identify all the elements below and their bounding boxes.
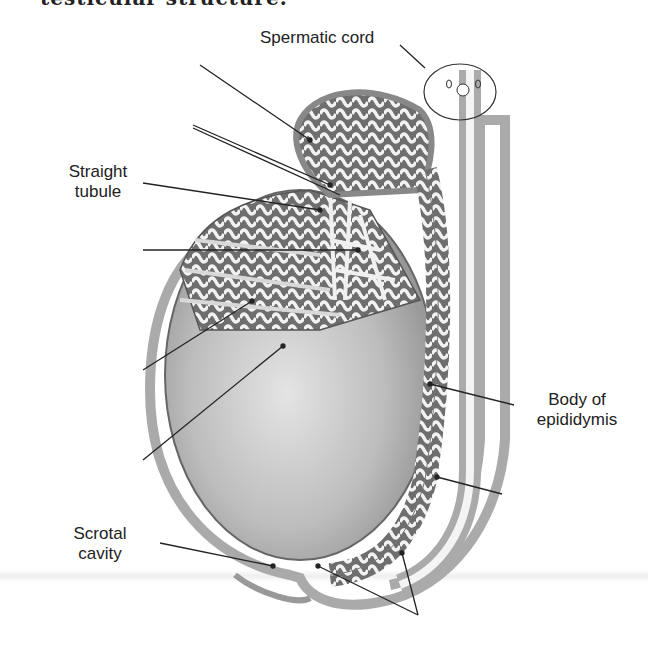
label-body-of-epididymis: Body of epididymis [522, 390, 632, 430]
label-straight-tubule: Straight tubule [58, 162, 138, 202]
label-straight-tubule-line1: Straight [58, 162, 138, 182]
label-scrotal-cavity-line1: Scrotal [60, 524, 140, 544]
label-straight-tubule-line2: tubule [58, 182, 138, 202]
label-scrotal-cavity-line2: cavity [60, 544, 140, 564]
label-body-of-epididymis-line1: Body of [522, 390, 632, 410]
label-spermatic-cord: Spermatic cord [260, 28, 374, 48]
lobules [180, 190, 420, 330]
label-body-of-epididymis-line2: epididymis [522, 410, 632, 430]
label-scrotal-cavity: Scrotal cavity [60, 524, 140, 564]
